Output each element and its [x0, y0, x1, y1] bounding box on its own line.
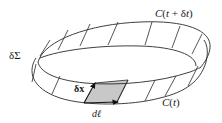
label-delta-x: δx: [74, 84, 84, 94]
inner-rim-curve: [40, 46, 196, 66]
curve-c-t-plus-dt: [38, 22, 210, 68]
label-c-t-plus-dt: C(t + δt): [155, 8, 193, 19]
strip-surface-diagram: C(t + δt) δΣ δx dℓ C(t): [0, 0, 222, 123]
label-c-t: C(t): [162, 97, 180, 108]
label-d-ell: dℓ: [92, 109, 101, 119]
label-delta-sigma: δΣ: [9, 50, 21, 61]
